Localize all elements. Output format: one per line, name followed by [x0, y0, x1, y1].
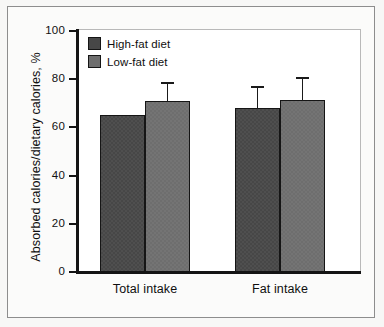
x-tick-label-fat-intake: Fat intake: [230, 282, 330, 296]
bar-low-fat-total-intake: [145, 101, 190, 272]
y-axis-title: Absorbed calories/dietary calories, %: [29, 37, 43, 277]
y-axis-line: [76, 29, 79, 274]
legend-swatch-low-fat-diet: [88, 55, 101, 68]
y-tick-label-100: 100: [25, 25, 65, 35]
legend-item-high-fat-diet: High-fat diet: [88, 36, 208, 51]
bar-high-fat-fat-intake: [235, 108, 280, 272]
x-tick-label-total-intake: Total intake: [95, 282, 195, 296]
figure-container: 100 80 60 40 20 0 Absorbed calories/diet…: [0, 0, 384, 327]
plot-frame-right: [360, 29, 361, 274]
errorbar-cap-low-fat-total-intake: [161, 82, 174, 84]
y-tick-label-100-wrap: 100: [20, 25, 65, 35]
legend-item-low-fat-diet: Low-fat diet: [88, 54, 208, 69]
plot-frame-top: [76, 29, 361, 30]
bar-high-fat-total-intake: [100, 115, 145, 272]
legend-label-low-fat-diet: Low-fat diet: [107, 56, 168, 68]
legend-swatch-high-fat-diet: [88, 37, 101, 50]
errorbar-line-low-fat-total-intake: [167, 82, 169, 102]
errorbar-cap-high-fat-fat-intake: [251, 86, 264, 88]
x-axis-line: [76, 271, 361, 274]
legend-label-high-fat-diet: High-fat diet: [107, 38, 170, 50]
errorbar-cap-low-fat-fat-intake: [296, 77, 309, 79]
legend: High-fat diet Low-fat diet: [88, 36, 208, 72]
errorbar-line-low-fat-fat-intake: [302, 77, 304, 101]
bar-low-fat-fat-intake: [280, 100, 325, 272]
errorbar-line-high-fat-fat-intake: [257, 86, 259, 109]
